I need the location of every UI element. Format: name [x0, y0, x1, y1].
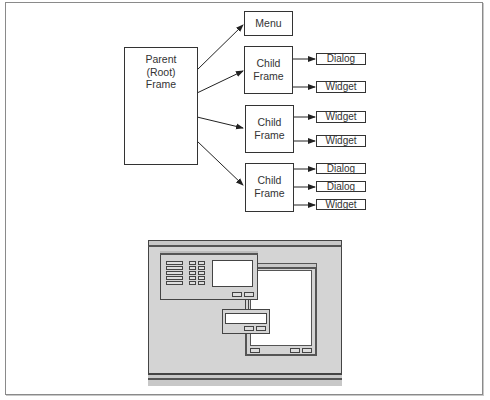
child-frame-3-dialog-2: Dialog: [316, 181, 366, 192]
panel-key: [189, 276, 196, 280]
child-frame-2-widget-1: Widget: [316, 111, 366, 123]
child-frame-2-label-1: Child: [246, 116, 293, 129]
panel-field-1: [166, 261, 183, 265]
secondary-window-content: [250, 270, 312, 346]
child-frame-1-dialog: Dialog: [316, 53, 366, 65]
child-frame-2-box: Child Frame: [245, 105, 294, 153]
child-frame-3-widget: Widget: [316, 199, 366, 210]
parent-root-frame-box: Parent (Root) Frame: [124, 47, 198, 165]
panel-key: [198, 261, 205, 265]
panel-key: [198, 276, 205, 280]
panel-dialog-connector: [245, 299, 249, 309]
panel-key: [198, 266, 205, 270]
parent-label-line-1: Parent: [125, 53, 197, 66]
dialog-button-1: [244, 326, 254, 331]
parent-label-line-3: Frame: [125, 78, 197, 91]
child-frame-3-label-2: Frame: [246, 187, 293, 200]
secondary-window-button-1: [250, 348, 260, 353]
panel-display: [212, 260, 253, 287]
screen-top-bar: [148, 240, 342, 247]
panel-key: [189, 266, 196, 270]
panel-button-1: [232, 292, 242, 297]
panel-key: [189, 281, 196, 285]
panel-key: [189, 271, 196, 275]
panel-field-3: [166, 271, 183, 275]
child-frame-3-box: Child Frame: [245, 163, 294, 212]
dialog-text-area: [225, 313, 267, 324]
child-frame-1-label-2: Frame: [245, 70, 292, 83]
dialog-button-2: [256, 326, 266, 331]
child-frame-1-label-1: Child: [245, 57, 292, 70]
panel-key: [198, 281, 205, 285]
screen-illustration: [148, 240, 342, 386]
child-frame-3-dialog-1: Dialog: [316, 163, 366, 174]
child-frame-3-label-1: Child: [246, 174, 293, 187]
panel-field-2: [166, 266, 183, 270]
menu-box: Menu: [244, 11, 293, 36]
panel-key: [189, 261, 196, 265]
secondary-window-button-3: [302, 348, 312, 353]
child-frame-1-widget: Widget: [316, 81, 366, 93]
panel-button-2: [244, 292, 254, 297]
panel-key: [198, 271, 205, 275]
panel-field-5: [166, 281, 183, 285]
secondary-window-button-2: [290, 348, 300, 353]
child-frame-2-widget-2: Widget: [316, 135, 366, 147]
panel-field-4: [166, 276, 183, 280]
menu-label: Menu: [245, 17, 292, 30]
screen-bottom-bar-line: [148, 378, 342, 380]
main-panel-titlebar: [160, 251, 258, 255]
parent-label-line-2: (Root): [125, 66, 197, 79]
child-frame-2-label-2: Frame: [246, 129, 293, 142]
child-frame-1-box: Child Frame: [244, 46, 293, 94]
